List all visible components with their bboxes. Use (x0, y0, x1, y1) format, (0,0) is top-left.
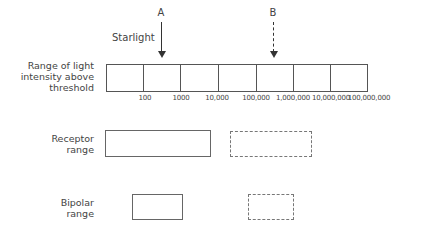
tick-label: 100,000,000 (348, 94, 390, 102)
tick-label: 1000 (172, 94, 189, 102)
bipolar-label-line: range (14, 208, 94, 219)
bipolar-range-label: Bipolar range (14, 197, 94, 219)
scale-label-line: Range of light (0, 60, 94, 71)
bipolar-range-solid-box (132, 194, 183, 220)
receptor-range-solid-box (105, 130, 211, 157)
arrow-a-head-icon (158, 51, 166, 58)
scale-label-line: threshold (0, 82, 94, 93)
scale-label-line: intensity above (0, 71, 94, 82)
scale-label: Range of light intensity above threshold (0, 60, 94, 93)
tick-label: 10,000 (205, 94, 228, 102)
scale-divider (218, 65, 219, 91)
tick-label: 1,000,000 (276, 94, 310, 102)
arrow-a-label: A (158, 7, 165, 18)
tick-label: 10,000,000 (312, 94, 350, 102)
receptor-range-dashed-box (230, 131, 312, 157)
tick-label: 100,000 (242, 94, 270, 102)
arrow-b-shaft (273, 22, 274, 52)
receptor-label-line: Receptor (14, 133, 94, 144)
arrow-b-label: B (270, 7, 277, 18)
tick-label: 100 (139, 94, 152, 102)
arrow-b-head-icon (270, 51, 278, 58)
scale-divider (256, 65, 257, 91)
intensity-scale-bar (106, 64, 368, 92)
scale-divider (330, 65, 331, 91)
scale-divider (180, 65, 181, 91)
scale-divider (293, 65, 294, 91)
bipolar-range-dashed-box (248, 194, 294, 220)
arrow-a-shaft (161, 22, 162, 52)
receptor-range-label: Receptor range (14, 133, 94, 155)
bipolar-label-line: Bipolar (14, 197, 94, 208)
scale-divider (143, 65, 144, 91)
receptor-label-line: range (14, 144, 94, 155)
starlight-label: Starlight (112, 32, 155, 43)
